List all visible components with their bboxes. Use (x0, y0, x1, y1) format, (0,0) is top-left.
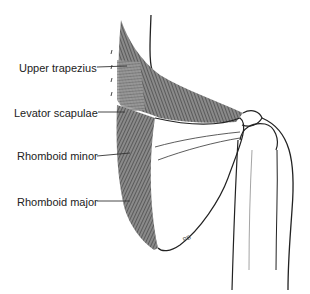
humerus-outline-right (276, 150, 277, 270)
spine-marker (111, 50, 112, 96)
rhomboid-muscles (117, 105, 158, 250)
scapula-spine (155, 132, 240, 147)
label-rhomboid-minor: Rhomboid minor (17, 150, 98, 162)
neck-outline (150, 15, 152, 70)
label-rhomboid-major: Rhomboid major (17, 196, 98, 208)
label-upper-trapezius: Upper trapezius (19, 62, 97, 74)
scapula-spine-2 (158, 138, 240, 160)
humeral-head-outline (240, 124, 277, 150)
anatomy-figure: PB Upper trapezius Levator scapulae Rhom… (0, 0, 310, 294)
shoulder-muscles-illustration: PB (0, 0, 310, 294)
humerus-inner (249, 150, 252, 270)
scapula-outline (155, 118, 244, 251)
label-levator-scapulae: Levator scapulae (14, 107, 98, 119)
humerus-outline-left (232, 140, 238, 290)
